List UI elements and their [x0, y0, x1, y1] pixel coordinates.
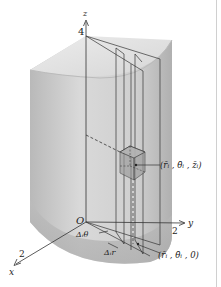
- x-tick-label: 2: [19, 249, 25, 259]
- origin-label: O: [76, 215, 84, 226]
- delta-r-label: Δᵢr: [103, 248, 116, 257]
- y-axis-label: y: [187, 218, 194, 228]
- cylinder-diagram: z 4 y 2 x 2 O (r̄ᵢ , θ̄ᵢ , z̄ᵢ) (r̄ᵢ , θ…: [0, 0, 221, 287]
- x-axis-label: x: [9, 267, 14, 277]
- upper-point-label: (r̄ᵢ , θ̄ᵢ , z̄ᵢ): [160, 160, 202, 170]
- sample-point-lower: [137, 243, 139, 245]
- x-axis-arrow: [14, 259, 21, 266]
- z-axis-label: z: [82, 9, 88, 18]
- y-tick-label: 2: [172, 226, 178, 236]
- z-tick-label: 4: [78, 26, 84, 37]
- solid-body: [30, 36, 172, 264]
- lower-point-label: (r̄ᵢ , θ̄ᵢ , 0): [158, 250, 199, 260]
- diagram-svg: z 4 y 2 x 2 O (r̄ᵢ , θ̄ᵢ , z̄ᵢ) (r̄ᵢ , θ…: [0, 0, 221, 287]
- delta-theta-label: Δᵢθ: [75, 230, 88, 239]
- frame-border: [216, 0, 217, 287]
